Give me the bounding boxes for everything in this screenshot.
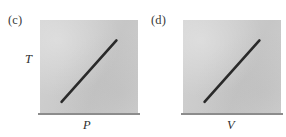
panel-d-letter: (d): [151, 13, 166, 28]
panel-d-x-axis-label: V: [227, 119, 235, 132]
panel-d-x-axis-rule: [181, 113, 283, 115]
panel-c-y-axis-label: T: [25, 53, 32, 66]
panel-d-trend-line: [183, 20, 281, 113]
panel-c-trend-line: [40, 20, 138, 113]
panel-c-x-axis-rule: [38, 113, 140, 115]
figure-root: (c) T P (d) n V: [0, 0, 286, 137]
panel-d: (d) n V: [143, 0, 286, 137]
panel-c: (c) T P: [0, 0, 143, 137]
panel-c-letter: (c): [8, 13, 22, 28]
panel-c-x-axis-label: P: [83, 119, 91, 132]
